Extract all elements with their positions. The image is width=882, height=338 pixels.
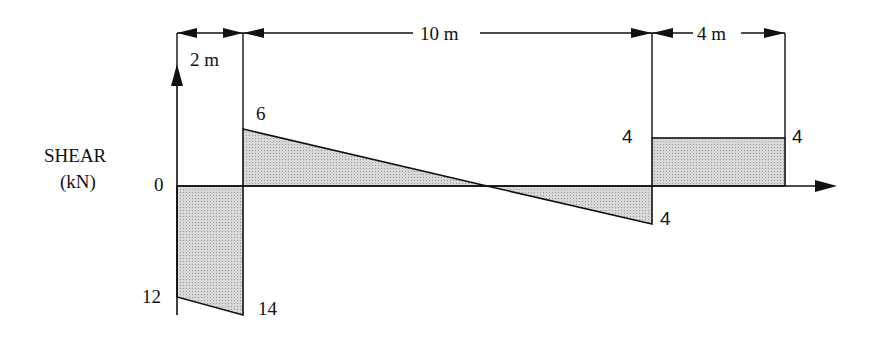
arrowhead-icon [764,28,785,38]
value-label-4-right: 4 [792,127,803,146]
shear-diagram [0,0,882,338]
y-axis-label: SHEAR [44,146,106,165]
y-axis-unit: (kN) [60,172,96,191]
dimension-label-4m: 4 m [697,24,726,43]
x-axis-arrow-icon [815,180,837,192]
value-label-14: 14 [258,299,277,318]
arrowhead-icon [652,28,673,38]
dimension-label-10m: 10 m [420,24,459,43]
value-label-12: 12 [142,287,161,306]
value-label-4-neg: 4 [660,209,671,228]
arrowhead-icon [223,28,243,38]
value-label-6: 6 [256,104,266,123]
arrowhead-icon [177,28,197,38]
zero-label: 0 [154,175,164,194]
segment-2-negative-area [487,186,652,224]
arrowhead-icon [631,28,652,38]
value-label-4-left: 4 [622,127,633,146]
segment-2-positive-area [243,129,487,186]
segment-1-area [177,186,243,315]
segment-3-area [652,138,785,186]
dimension-label-2m: 2 m [190,50,219,69]
arrowhead-icon [243,28,264,38]
